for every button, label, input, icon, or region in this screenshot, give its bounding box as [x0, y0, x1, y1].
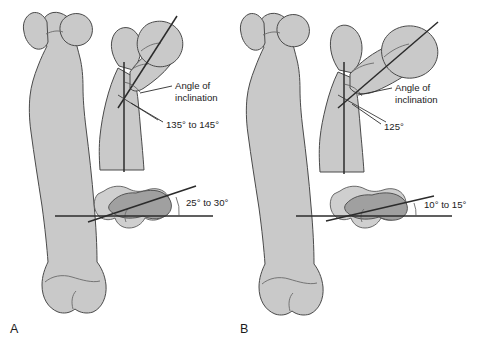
femur-head-b: [277, 15, 310, 47]
inclination-label-line2-b: inclination: [395, 94, 438, 105]
inclination-value-b: 125°: [384, 121, 404, 132]
femoral-head-proximal-a: [137, 21, 183, 67]
inclination-label-line1-b: Angle of: [395, 82, 431, 93]
femur-angles-figure: Angle of inclination 135° to 145° 25° to…: [0, 0, 486, 348]
inclination-label-line2-a: inclination: [175, 92, 218, 103]
panel-letter-a: A: [10, 322, 19, 336]
inclination-value-a: 135° to 145°: [166, 119, 219, 130]
femur-head-a: [60, 14, 93, 46]
panel-letter-b: B: [240, 322, 248, 336]
inclination-label-line1-a: Angle of: [175, 80, 211, 91]
torsion-value-b: 10° to 15°: [424, 199, 467, 210]
torsion-value-a: 25° to 30°: [186, 197, 229, 208]
